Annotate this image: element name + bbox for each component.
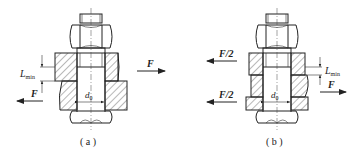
svg-text:F: F (327, 79, 335, 90)
d0-label-a: d0 (85, 90, 93, 101)
d0-dimension-a: d0 (78, 90, 104, 102)
force-left-top-b: F/2 (207, 48, 237, 61)
bolt-joint-diagram: Lmin d0 F F ( a ) (0, 0, 355, 159)
svg-text:F/2: F/2 (218, 89, 233, 100)
force-right-a: F (137, 58, 165, 71)
figure-b: Lmin d0 F/2 F/2 F ( b ) (207, 8, 346, 148)
caption-b: ( b ) (266, 136, 283, 148)
figure-a: Lmin d0 F F ( a ) (17, 8, 165, 148)
lmin-label-a: Lmin (19, 68, 35, 80)
svg-text:F/2: F/2 (218, 48, 233, 59)
d0-dimension-b: d0 (264, 90, 290, 102)
caption-a: ( a ) (80, 136, 96, 148)
lmin-label-b: Lmin (324, 65, 340, 77)
svg-text:F: F (146, 58, 154, 69)
force-right-b: F (320, 79, 346, 92)
lower-plate-a (59, 81, 127, 110)
svg-text:F: F (30, 88, 38, 99)
force-left-a: F (17, 88, 43, 101)
middle-plate-b (251, 75, 308, 97)
d0-label-b: d0 (271, 90, 279, 101)
force-left-bottom-b: F/2 (207, 89, 237, 102)
